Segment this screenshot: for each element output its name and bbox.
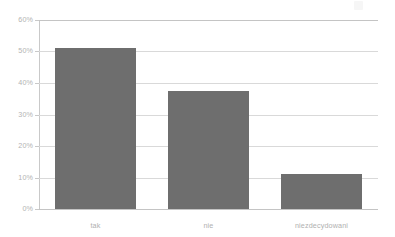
plot-area bbox=[39, 20, 378, 209]
x-axis-tick-label-niezdecydowani: niezdecydowani bbox=[262, 222, 382, 229]
y-axis-tick-label: 20% bbox=[0, 142, 33, 149]
bar-tak bbox=[55, 48, 136, 209]
bar-chart: 0%10%20%30%40%50%60% taknieniezdecydowan… bbox=[0, 0, 395, 237]
y-axis-tick-label: 40% bbox=[0, 79, 33, 86]
y-axis-tick-label: 60% bbox=[0, 16, 33, 23]
y-axis-tick-label: 30% bbox=[0, 111, 33, 118]
bar-niezdecydowani bbox=[281, 174, 362, 209]
y-axis-tick-label: 0% bbox=[0, 205, 33, 212]
y-axis-tick-label: 50% bbox=[0, 47, 33, 54]
bar-nie bbox=[168, 91, 249, 209]
x-axis-tick-label-nie: nie bbox=[149, 222, 269, 229]
x-axis-tick-label-tak: tak bbox=[36, 222, 156, 229]
y-axis-tick-label: 10% bbox=[0, 174, 33, 181]
